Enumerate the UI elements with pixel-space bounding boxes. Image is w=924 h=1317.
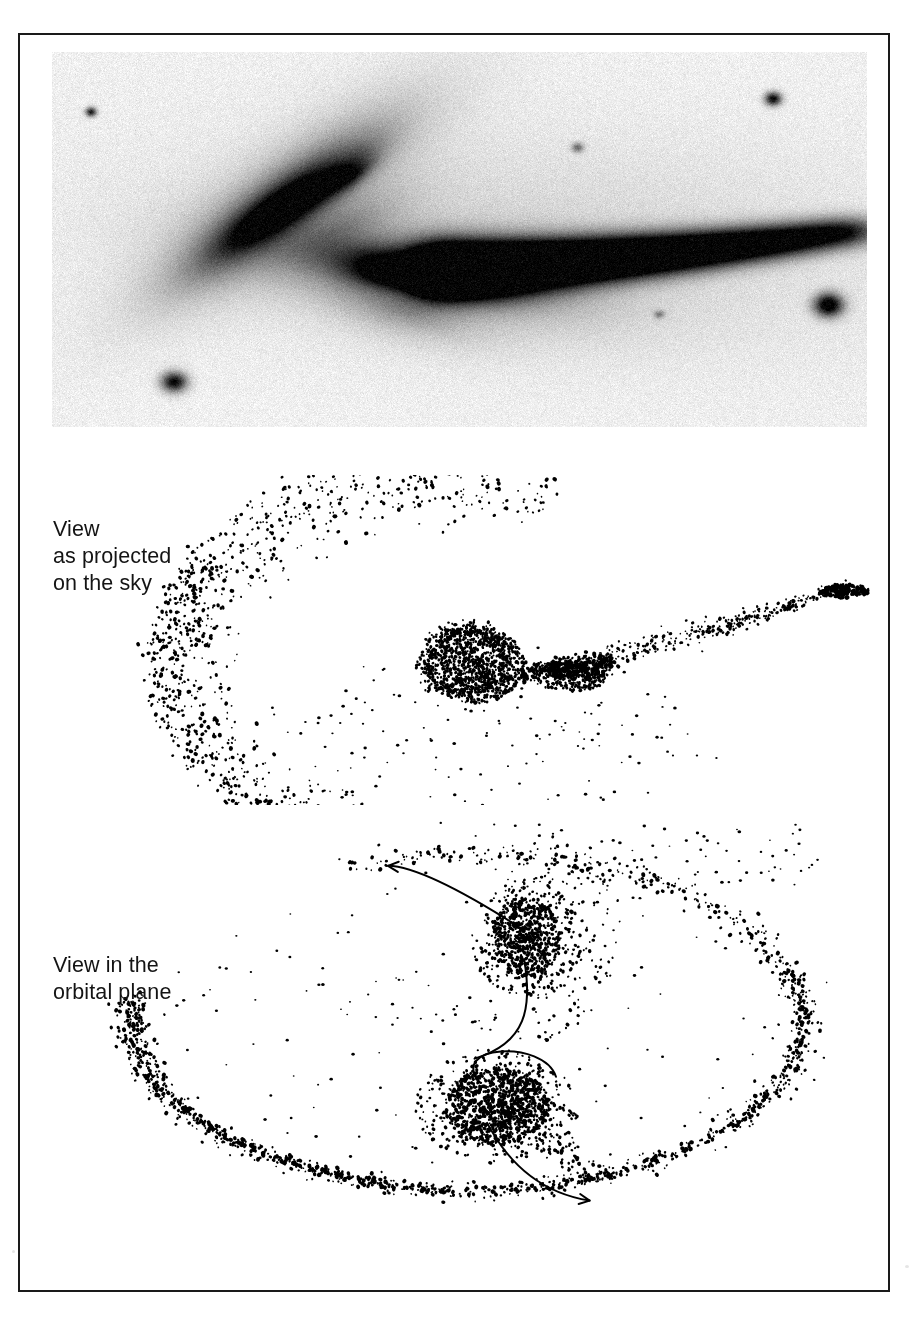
orbital-plane-scatter (52, 810, 892, 1230)
orbital-plane-panel (52, 810, 892, 1230)
figure-border: View as projected on the sky View in the… (18, 33, 890, 1292)
sky-projection-label: View as projected on the sky (53, 516, 171, 597)
observed-photograph-panel (52, 52, 867, 427)
galaxy-photograph (52, 52, 867, 427)
orbital-plane-label: View in the orbital plane (53, 952, 171, 1006)
print-fleck (12, 1250, 15, 1253)
print-fleck (905, 1265, 909, 1268)
sky-projection-panel (52, 475, 892, 805)
figure-root: View as projected on the sky View in the… (0, 0, 924, 1317)
sky-projection-scatter (52, 475, 892, 805)
